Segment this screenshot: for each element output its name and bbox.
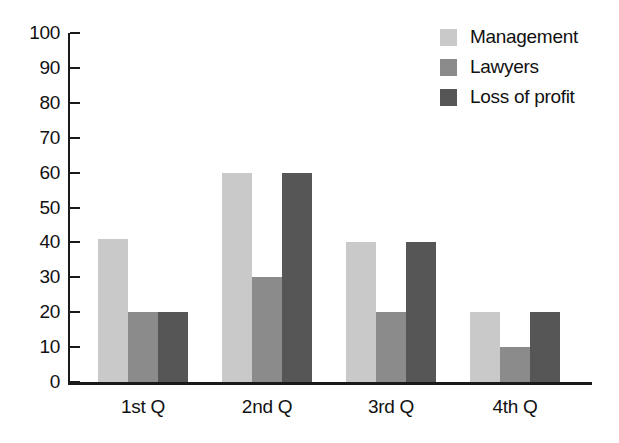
legend-item: Management bbox=[440, 22, 578, 52]
bar-group bbox=[222, 33, 312, 382]
bar bbox=[346, 242, 376, 382]
y-axis-tick-label-text: 80 bbox=[14, 93, 60, 112]
legend-item: Loss of profit bbox=[440, 82, 578, 112]
y-axis-tick-label: 70 bbox=[0, 128, 60, 147]
y-axis-tick-label: 80 bbox=[0, 93, 60, 112]
chart-legend: ManagementLawyersLoss of profit bbox=[440, 22, 578, 112]
y-axis-tick-label-text: 0 bbox=[14, 372, 60, 391]
bar bbox=[252, 277, 282, 382]
y-axis-tick-label: 40 bbox=[0, 232, 60, 251]
y-axis-tick-label: 100 bbox=[0, 23, 60, 42]
bar bbox=[222, 173, 252, 382]
bar bbox=[282, 173, 312, 382]
bar-group bbox=[98, 33, 188, 382]
y-axis-tick-label-text: 100 bbox=[14, 23, 60, 42]
legend-swatch-icon bbox=[440, 89, 457, 106]
x-axis-tick-label: 1st Q bbox=[83, 396, 203, 418]
x-axis-tick-label: 2nd Q bbox=[207, 396, 327, 418]
legend-item-label: Management bbox=[470, 26, 578, 48]
bar bbox=[406, 242, 436, 382]
y-axis-tick-label-text: 60 bbox=[14, 163, 60, 182]
bar bbox=[98, 239, 128, 382]
bar bbox=[158, 312, 188, 382]
x-axis-line bbox=[68, 382, 592, 385]
legend-item: Lawyers bbox=[440, 52, 578, 82]
legend-item-label: Loss of profit bbox=[470, 86, 575, 108]
y-axis-tick-label-text: 70 bbox=[14, 128, 60, 147]
bar bbox=[376, 312, 406, 382]
y-axis-tick-label: 90 bbox=[0, 58, 60, 77]
y-axis-tick-label: 0 bbox=[0, 372, 60, 391]
y-axis-tick-label-text: 20 bbox=[14, 302, 60, 321]
y-axis-tick-label-text: 90 bbox=[14, 58, 60, 77]
y-axis-tick-label-text: 30 bbox=[14, 267, 60, 286]
y-axis-tick-label: 10 bbox=[0, 337, 60, 356]
bar-chart: 1009080706050403020100 1st Q2nd Q3rd Q4t… bbox=[0, 0, 619, 443]
y-axis-tick-label-text: 40 bbox=[14, 232, 60, 251]
x-axis-tick-label: 3rd Q bbox=[331, 396, 451, 418]
y-axis-tick-label: 20 bbox=[0, 302, 60, 321]
legend-swatch-icon bbox=[440, 59, 457, 76]
legend-swatch-icon bbox=[440, 29, 457, 46]
y-axis-tick-label-text: 50 bbox=[14, 198, 60, 217]
y-axis-tick-label: 60 bbox=[0, 163, 60, 182]
bar bbox=[470, 312, 500, 382]
y-axis-tick-label: 50 bbox=[0, 198, 60, 217]
bar bbox=[500, 347, 530, 382]
bar bbox=[128, 312, 158, 382]
x-axis-tick-label: 4th Q bbox=[455, 396, 575, 418]
bar-group bbox=[346, 33, 436, 382]
legend-item-label: Lawyers bbox=[470, 56, 539, 78]
bar bbox=[530, 312, 560, 382]
y-axis-tick-label: 30 bbox=[0, 267, 60, 286]
y-axis-tick-label-text: 10 bbox=[14, 337, 60, 356]
